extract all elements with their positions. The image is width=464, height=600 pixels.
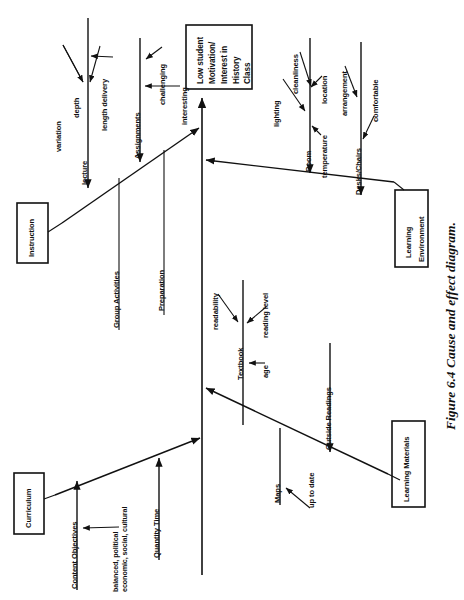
branch-curriculum-line: [44, 438, 200, 499]
cause-label-length-delivery: length delivery: [100, 79, 109, 131]
branch-label-curriculum: Curriculum: [24, 488, 33, 528]
cause-label-reading-level: reading level: [261, 293, 270, 338]
rib-room-line: [283, 38, 322, 173]
branch-label-learning-environment-1: Learning: [404, 227, 413, 258]
rib-label-textbook: Textbook: [236, 348, 245, 380]
branch-learning-materials-line: [206, 388, 400, 480]
rib-label-preparation: Preparation: [157, 270, 166, 311]
effect-line-3: Interest in: [220, 46, 229, 84]
figure-caption: Figure 6.4 Cause and effect diagram.: [443, 222, 459, 430]
cause-label-comfortable: comfortable: [371, 80, 380, 122]
cause-label-cleanliness: cleanliness: [291, 54, 300, 94]
cause-label-lighting: lighting: [272, 100, 281, 127]
cause-label-up-to-date: up to date: [307, 473, 316, 508]
rib-label-room: Room: [304, 151, 313, 172]
branch-instruction-line: [48, 128, 199, 232]
rib-label-lecture: lecture: [80, 161, 89, 185]
rib-label-assignments: Assignments: [133, 112, 142, 159]
rib-label-outside-readings: Outside Readings: [324, 387, 333, 450]
rib-label-group-activities: Group Activities: [112, 271, 121, 328]
cause-label-age: age: [261, 365, 270, 378]
effect-line-2: Motivation/: [208, 42, 217, 84]
cause-label-balanced-political: balanced, political: [111, 532, 120, 592]
effect-line-4: History: [232, 56, 241, 84]
branch-label-instruction: Instruction: [27, 219, 36, 257]
cause-label-challenging: challenging: [158, 64, 167, 105]
cause-label-arrangement: arrangement: [340, 71, 349, 116]
rib-label-quantity-time: Quantity Time: [152, 509, 161, 558]
rib-maps-line: [280, 428, 310, 508]
rib-label-desks-chairs: Desks/Chairs: [354, 148, 363, 195]
figure-canvas: Low student Motivation/ Interest in Hist…: [0, 0, 464, 600]
rib-label-maps: Maps: [273, 484, 282, 503]
cause-label-readability: readability: [211, 293, 220, 330]
effect-line-5: Class: [243, 63, 252, 84]
cause-label-depth: depth: [72, 98, 81, 118]
cause-label-interesting: interesting: [180, 87, 189, 125]
effect-line-1: Low student: [196, 37, 205, 84]
cause-label-temperature: temperature: [320, 135, 329, 178]
fishbone-diagram-lines: [0, 0, 464, 600]
cause-label-location: location: [320, 76, 329, 104]
cause-label-economic-social-cultural: economic, social, cultural: [120, 507, 129, 592]
branch-label-learning-environment-2: Environment: [417, 217, 426, 262]
cause-label-variation: variation: [54, 121, 63, 152]
branch-label-learning-materials: Learning Materials: [402, 437, 411, 502]
rib-label-content-objectives: Content Objectives: [70, 522, 79, 589]
